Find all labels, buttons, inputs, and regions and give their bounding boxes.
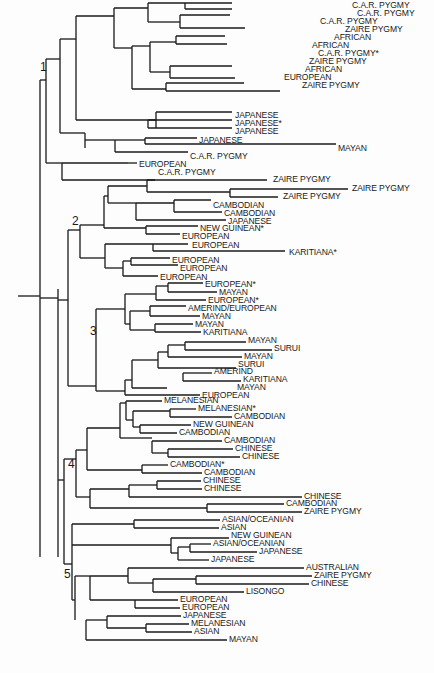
leaf-label: LISONGO bbox=[246, 587, 284, 596]
leaf-label: CHINESE bbox=[204, 484, 242, 493]
leaf-label: KARITIANA* bbox=[289, 248, 337, 257]
clade-number: 3 bbox=[90, 324, 97, 338]
leaf-label: MAYAN bbox=[248, 336, 277, 345]
leaf-label: EUROPEAN bbox=[160, 273, 207, 282]
clade-number: 5 bbox=[64, 567, 71, 581]
leaf-label: ZAIRE PYGMY bbox=[283, 192, 341, 201]
leaf-label: SURUI bbox=[274, 344, 300, 353]
leaf-label: CHINESE bbox=[311, 579, 349, 588]
leaf-label: ZAIRE PYGMY bbox=[352, 184, 410, 193]
leaf-label: CHINESE bbox=[242, 452, 280, 461]
leaf-label: KARITIANA bbox=[203, 328, 247, 337]
leaf-label: JAPANESE bbox=[211, 555, 254, 564]
leaf-label: C.A.R. PYGMY bbox=[158, 168, 216, 177]
leaf-label: MAYAN bbox=[229, 635, 258, 644]
clade-number: 4 bbox=[68, 457, 75, 471]
leaf-label: ZAIRE PYGMY bbox=[273, 175, 331, 184]
leaf-label: ZAIRE PYGMY bbox=[302, 81, 360, 90]
leaf-label: CAMBODIAN bbox=[179, 428, 230, 437]
leaf-label: JAPANESE bbox=[199, 136, 242, 145]
leaf-label: JAPANESE bbox=[259, 547, 302, 556]
clade-number: 2 bbox=[72, 214, 79, 228]
leaf-label: ZAIRE PYGMY bbox=[304, 507, 362, 516]
leaf-label: ASIAN bbox=[194, 627, 219, 636]
leaf-label: C.A.R. PYGMY bbox=[190, 152, 248, 161]
clade-number: 1 bbox=[40, 60, 47, 74]
leaf-label: MAYAN bbox=[338, 144, 367, 153]
leaf-label: EUROPEAN bbox=[192, 241, 239, 250]
